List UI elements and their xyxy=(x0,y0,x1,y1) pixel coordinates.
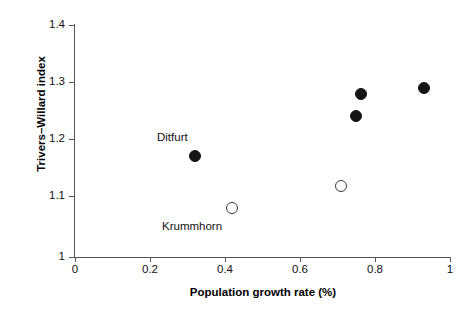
x-tick-label-1.0: 1 xyxy=(430,263,470,275)
x-tick-0 xyxy=(75,257,76,262)
x-tick-0.4 xyxy=(225,257,226,262)
data-point-filled-2 xyxy=(350,110,362,122)
data-point-filled-3 xyxy=(355,88,367,100)
x-tick-label-0.2: 0.2 xyxy=(130,263,170,275)
x-axis-title: Population growth rate (%) xyxy=(75,286,451,298)
y-axis-title: Trivers–Willard index xyxy=(35,19,47,209)
x-tick-label-0.8: 0.8 xyxy=(355,263,395,275)
y-axis-line xyxy=(74,24,75,258)
x-tick-0.6 xyxy=(300,257,301,262)
x-tick-0.8 xyxy=(375,257,376,262)
annotation-ditfurt: Ditfurt xyxy=(157,131,188,143)
data-point-open-2 xyxy=(335,180,347,192)
y-tick-1.4 xyxy=(69,25,74,26)
scatter-chart-figure: 1.4 1.3 1.2 1.1 1 0 0.2 0.4 0.6 0.8 1 Tr… xyxy=(0,0,473,319)
data-point-ditfurt xyxy=(189,150,201,162)
y-tick-1.0 xyxy=(69,257,74,258)
data-point-filled-4 xyxy=(418,82,430,94)
annotation-krummhorn: Krummhorn xyxy=(162,220,222,232)
x-tick-0.2 xyxy=(150,257,151,262)
x-tick-1.0 xyxy=(450,257,451,262)
y-tick-1.2 xyxy=(69,139,74,140)
x-tick-label-0.4: 0.4 xyxy=(205,263,245,275)
y-tick-1.1 xyxy=(69,196,74,197)
x-tick-label-0: 0 xyxy=(55,263,95,275)
x-axis-line xyxy=(75,257,451,258)
x-tick-label-0.6: 0.6 xyxy=(280,263,320,275)
data-point-krummhorn xyxy=(226,202,238,214)
y-tick-1.3 xyxy=(69,82,74,83)
y-tick-label-1.0: 1 xyxy=(31,250,65,262)
